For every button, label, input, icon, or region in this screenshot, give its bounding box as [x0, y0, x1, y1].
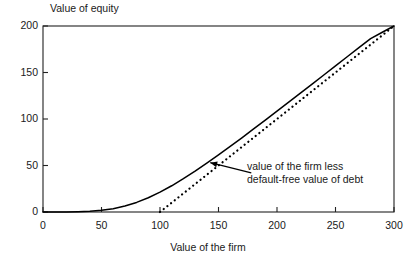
y-tick-label: 50 [4, 159, 38, 171]
x-tick-label: 0 [23, 219, 63, 231]
x-tick-label: 250 [316, 219, 356, 231]
annotation-arrow-head [210, 161, 217, 167]
y-tick-label: 200 [4, 19, 38, 31]
y-tick-label: 100 [4, 112, 38, 124]
x-tick-label: 150 [199, 219, 239, 231]
annotation-line-2: default-free value of debt [247, 173, 363, 186]
annotation-callout: value of the firm less default-free valu… [247, 160, 363, 186]
y-tick-label: 0 [4, 205, 38, 217]
y-tick-label: 150 [4, 66, 38, 78]
x-tick-label: 50 [82, 219, 122, 231]
chart-figure: Value of equity Value of the firm value … [0, 0, 416, 263]
x-tick-label: 100 [140, 219, 180, 231]
x-tick-label: 200 [257, 219, 297, 231]
x-tick-label: 300 [374, 219, 414, 231]
annotation-line-1: value of the firm less [247, 160, 363, 173]
